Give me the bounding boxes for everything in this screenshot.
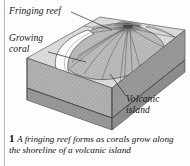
caption-number: 1 — [9, 132, 15, 144]
caption-text: A fringing reef forms as corals grow alo… — [9, 134, 174, 155]
label-volcanic-island: Volcanic island — [126, 94, 184, 115]
label-growing-coral: Growing coral — [9, 33, 61, 54]
figure-caption: 1A fringing reef forms as corals grow al… — [9, 133, 185, 156]
figure-root: Fringing reef Growing coral Volcanic isl… — [0, 0, 190, 166]
label-fringing-reef: Fringing reef — [9, 6, 61, 17]
